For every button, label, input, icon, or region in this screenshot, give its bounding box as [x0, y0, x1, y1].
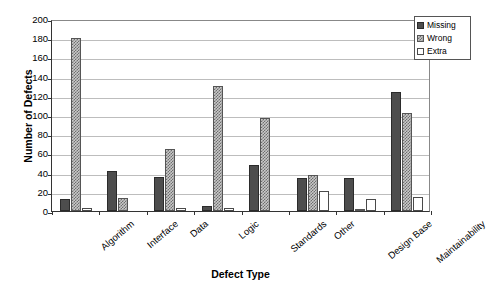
- bar-missing-design-base: [344, 178, 354, 211]
- bar-group: [147, 21, 194, 211]
- y-tick-label: 20: [22, 188, 48, 198]
- y-tick-label: 200: [22, 15, 48, 25]
- plot-area: [51, 20, 430, 212]
- bar-missing-other: [297, 178, 307, 211]
- x-axis-title: Defect Type: [51, 268, 430, 280]
- bar-group: [289, 21, 336, 211]
- bar-group: [242, 21, 289, 211]
- y-tick-label: 80: [22, 130, 48, 140]
- x-axis-category-labels: AlgorithmInterfaceDataLogicStandardsOthe…: [51, 212, 430, 268]
- bar-group: [194, 21, 241, 211]
- legend-item: Wrong: [417, 32, 468, 44]
- y-tick-label: 0: [22, 207, 48, 217]
- y-tick-label: 120: [22, 92, 48, 102]
- bar-missing-interface: [107, 171, 117, 211]
- legend-label: Wrong: [427, 34, 452, 43]
- legend-item: Missing: [417, 19, 468, 31]
- bar-extra-design-base: [366, 199, 376, 211]
- bar-extra-algorithm: [82, 208, 92, 211]
- bar-group: [52, 21, 99, 211]
- x-category-label: Interface: [145, 218, 180, 250]
- bar-missing-logic: [202, 206, 212, 211]
- x-category-label: Maintainability: [434, 218, 487, 265]
- legend-swatch-icon: [417, 48, 424, 55]
- y-tick-label: 60: [22, 149, 48, 159]
- bar-group: [336, 21, 383, 211]
- y-tick-label: 160: [22, 53, 48, 63]
- bar-missing-data: [154, 177, 164, 211]
- bar-group: [99, 21, 146, 211]
- bar-extra-other: [319, 191, 329, 211]
- y-tick-label: 140: [22, 73, 48, 83]
- bar-extra-maintainability: [413, 197, 423, 211]
- x-category-label: Logic: [236, 218, 260, 241]
- bar-wrong-logic: [213, 86, 223, 211]
- x-tick-mark: [431, 211, 432, 215]
- bar-wrong-algorithm: [71, 38, 81, 211]
- x-category-label: Other: [331, 218, 356, 242]
- legend-swatch-icon: [417, 22, 424, 29]
- bar-wrong-interface: [118, 198, 128, 211]
- legend-swatch-icon: [417, 35, 424, 42]
- y-tick-label: 40: [22, 169, 48, 179]
- y-tick-label: 180: [22, 34, 48, 44]
- bar-missing-maintainability: [391, 92, 401, 211]
- bar-groups: [52, 21, 429, 211]
- x-category-label: Design Base: [386, 218, 434, 261]
- x-category-label: Standards: [288, 218, 328, 254]
- bar-extra-data: [176, 208, 186, 211]
- bar-extra-logic: [224, 208, 234, 211]
- y-axis-tick-labels: 200180160140120100806040200: [18, 0, 48, 294]
- bar-wrong-maintainability: [402, 113, 412, 211]
- bar-wrong-data: [165, 149, 175, 211]
- bar-missing-algorithm: [60, 199, 70, 211]
- bar-wrong-standards: [260, 118, 270, 211]
- bar-wrong-design-base: [355, 209, 365, 211]
- bar-wrong-other: [308, 175, 318, 211]
- x-category-label: Data: [188, 218, 210, 239]
- bar-missing-standards: [249, 165, 259, 211]
- chart-legend: MissingWrongExtra: [414, 16, 471, 60]
- y-tick-label: 100: [22, 111, 48, 121]
- x-category-label: Algorithm: [98, 218, 136, 252]
- legend-label: Extra: [427, 47, 447, 56]
- legend-item: Extra: [417, 45, 468, 57]
- legend-label: Missing: [427, 21, 456, 30]
